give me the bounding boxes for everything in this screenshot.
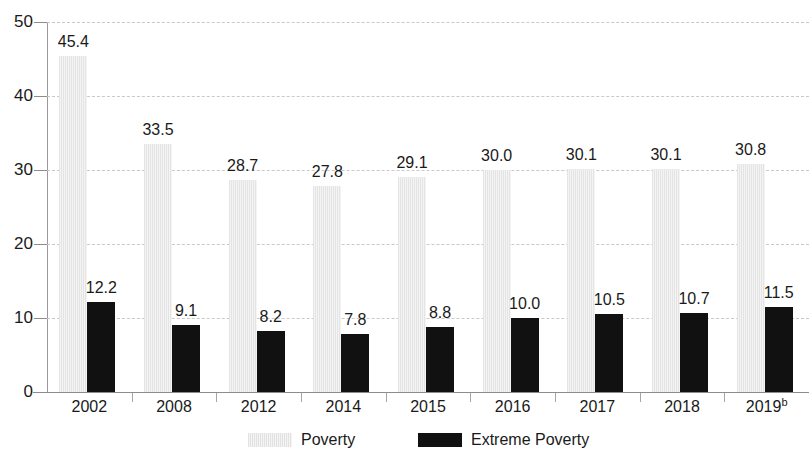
bar-poverty-2019 — [737, 164, 765, 392]
x-axis-tick-label-2017: 2017 — [555, 398, 640, 416]
y-axis-tick-label: 30 — [3, 161, 33, 178]
bar-extreme-poverty-2016 — [511, 318, 539, 392]
y-tick-0 — [34, 392, 47, 393]
bar-value-label: 27.8 — [299, 164, 355, 180]
legend-label: Poverty — [301, 432, 355, 448]
chart-legend: PovertyExtreme Poverty — [0, 432, 809, 455]
y-tick-20 — [34, 244, 47, 245]
bar-value-label: 10.0 — [497, 296, 553, 312]
bar-value-label: 33.5 — [130, 122, 186, 138]
y-axis-tick-label: 20 — [3, 235, 33, 252]
bar-value-label: 29.1 — [384, 155, 440, 171]
legend-swatch-icon — [418, 433, 462, 447]
x-axis-tick-label-2012: 2012 — [216, 398, 301, 416]
bar-extreme-poverty-2015 — [426, 327, 454, 392]
y-axis-labels: 01020304050 — [0, 0, 33, 455]
bar-value-label: 7.8 — [327, 312, 383, 328]
legend-swatch-icon — [248, 433, 292, 447]
bar-value-label: 30.1 — [638, 147, 694, 163]
y-axis-tick-label: 50 — [3, 13, 33, 30]
bar-poverty-2015 — [398, 177, 426, 392]
bar-extreme-poverty-2018 — [680, 313, 708, 392]
bar-poverty-2017 — [567, 169, 595, 392]
y-tick-50 — [34, 22, 47, 23]
bar-value-label: 45.4 — [45, 34, 101, 50]
bar-extreme-poverty-2019 — [765, 307, 793, 392]
bar-poverty-2016 — [483, 170, 511, 392]
y-axis-tick-label: 10 — [3, 309, 33, 326]
x-axis-tick-label-2019: 2019b — [724, 398, 809, 416]
bar-poverty-2018 — [652, 169, 680, 392]
bar-extreme-poverty-2014 — [341, 334, 369, 392]
y-tick-40 — [34, 96, 47, 97]
bar-value-label: 30.8 — [723, 142, 779, 158]
gridline-40 — [47, 96, 809, 97]
bar-value-label: 12.2 — [73, 280, 129, 296]
y-tick-30 — [34, 170, 47, 171]
legend-item-extreme-poverty[interactable]: Extreme Poverty — [418, 432, 589, 448]
bar-value-label: 10.7 — [666, 291, 722, 307]
x-axis-tick-label-2014: 2014 — [301, 398, 386, 416]
bar-value-label: 11.5 — [751, 285, 807, 301]
x-label-footnote-marker: b — [781, 396, 787, 408]
legend-label: Extreme Poverty — [471, 432, 589, 448]
bar-extreme-poverty-2012 — [257, 331, 285, 392]
bar-extreme-poverty-2002 — [87, 302, 115, 392]
bar-value-label: 8.2 — [243, 309, 299, 325]
gridline-50 — [47, 22, 809, 23]
legend-item-poverty[interactable]: Poverty — [248, 432, 355, 448]
bar-value-label: 9.1 — [158, 303, 214, 319]
x-axis-tick-label-2002: 2002 — [47, 398, 132, 416]
x-axis-tick-label-2008: 2008 — [132, 398, 217, 416]
plot-area: 45.412.233.59.128.78.227.87.829.18.830.0… — [47, 22, 809, 392]
y-axis-tick-label: 40 — [3, 87, 33, 104]
bar-value-label: 8.8 — [412, 305, 468, 321]
x-axis-tick-label-2016: 2016 — [470, 398, 555, 416]
x-axis-line — [33, 392, 809, 393]
bar-value-label: 10.5 — [581, 292, 637, 308]
bar-value-label: 28.7 — [215, 158, 271, 174]
bar-value-label: 30.1 — [553, 147, 609, 163]
y-tick-10 — [34, 318, 47, 319]
bar-extreme-poverty-2008 — [172, 325, 200, 392]
x-axis-tick-label-2018: 2018 — [640, 398, 725, 416]
bar-value-label: 30.0 — [469, 148, 525, 164]
bar-poverty-2008 — [144, 144, 172, 392]
bar-poverty-2014 — [313, 186, 341, 392]
y-axis-tick-label: 0 — [3, 383, 33, 400]
bar-extreme-poverty-2017 — [595, 314, 623, 392]
poverty-bar-chart: 01020304050 45.412.233.59.128.78.227.87.… — [0, 0, 809, 455]
bar-poverty-2002 — [59, 56, 87, 392]
x-axis-tick-label-2015: 2015 — [386, 398, 471, 416]
bar-poverty-2012 — [229, 180, 257, 392]
